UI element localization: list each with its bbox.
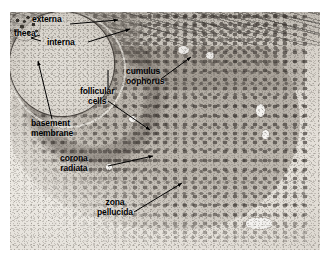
label-theca-interna: interna [47, 38, 75, 48]
label-follicular-line1: follicular [80, 86, 114, 96]
label-corona-radiata: corona radiata [60, 154, 88, 173]
label-cumulus-line1: cumulus [126, 66, 160, 76]
label-theca-externa: externa [32, 15, 62, 25]
label-basement-line2: membrane [31, 128, 73, 138]
label-corona-line2: radiata [60, 163, 87, 173]
label-cumulus-line2: oophorus [126, 76, 164, 86]
label-follicular-cells: follicular cells [80, 87, 114, 106]
label-zona-pellucida: zona pellucida [97, 198, 133, 217]
label-zona-line1: zona [105, 197, 124, 207]
label-theca: theca [14, 29, 36, 39]
label-corona-line1: corona [60, 153, 88, 163]
label-basement-line1: basement [31, 118, 70, 128]
label-zona-line2: pellucida [97, 207, 133, 217]
label-cumulus-oophorus: cumulus oophorus [126, 67, 164, 86]
histology-figure: theca externa interna cumulus oophorus f… [0, 0, 331, 262]
label-follicular-line2: cells [88, 96, 106, 106]
label-basement-membrane: basement membrane [31, 119, 73, 138]
